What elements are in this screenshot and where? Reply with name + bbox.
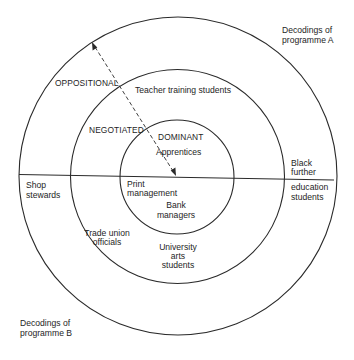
group-teacher-training-students: Teacher training students xyxy=(135,85,231,95)
group-bank-managers-line2: managers xyxy=(157,210,195,220)
group-shop-stewards-line1: Shop xyxy=(26,180,46,190)
programme-a-caption-line2: programme A xyxy=(282,35,334,45)
decoding-positions-diagram: OPPOSITIONAL NEGOTIATED DOMINANT Teacher… xyxy=(0,0,354,360)
group-shop-stewards-line2: stewards xyxy=(26,190,60,200)
group-university-arts-students-line3: students xyxy=(162,260,195,270)
group-print-management-line2: management xyxy=(127,188,178,198)
group-education-students-line2: students xyxy=(291,192,324,202)
programme-b-caption-line2: programme B xyxy=(20,328,72,338)
group-bank-managers-line1: Bank xyxy=(166,200,186,210)
programme-divider-line xyxy=(19,175,334,181)
oppositional-ring xyxy=(19,17,337,335)
negotiated-label: NEGOTIATED xyxy=(89,125,144,135)
group-education-students-line1: education xyxy=(291,182,328,192)
group-apprentices: Apprentices xyxy=(156,147,201,157)
group-trade-union-officials-line2: officials xyxy=(93,237,122,247)
programme-a-caption-line1: Decodings of xyxy=(282,25,333,35)
oppositional-label: OPPOSITIONAL xyxy=(55,78,119,88)
dominant-label: DOMINANT xyxy=(158,132,203,142)
programme-b-caption-line1: Decodings of xyxy=(20,318,71,328)
group-black-further-line2: further xyxy=(291,167,316,177)
